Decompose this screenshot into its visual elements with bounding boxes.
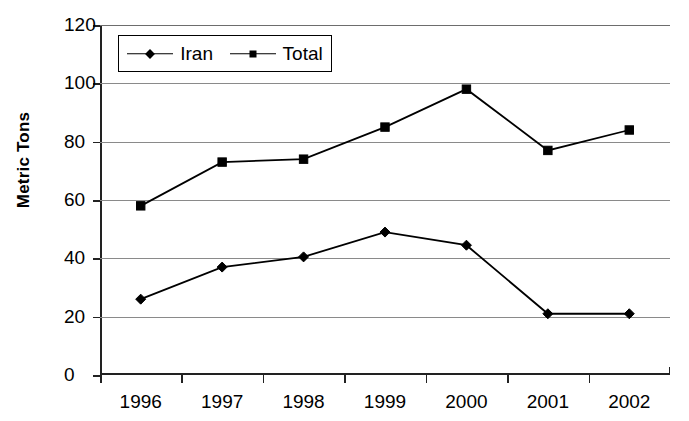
data-point-total-1997: [218, 158, 226, 166]
data-point-total-2002: [625, 126, 633, 134]
y-tick-label-100: 100: [64, 72, 82, 94]
data-point-iran-1996: [136, 294, 146, 304]
x-tick-1996: [100, 375, 102, 383]
data-point-iran-2002: [624, 309, 634, 319]
y-tick-label-60: 60: [64, 189, 82, 211]
data-point-total-1996: [137, 202, 145, 210]
legend-marker-square-icon: [230, 47, 276, 61]
data-point-iran-1998: [299, 252, 309, 262]
series-group: [100, 25, 670, 375]
legend-marker-diamond-icon: [127, 47, 173, 61]
x-tick-label-1999: 1999: [364, 391, 406, 413]
x-tick-label-1996: 1996: [120, 391, 162, 413]
x-tick-2000: [426, 375, 428, 383]
x-tick-label-1998: 1998: [282, 391, 324, 413]
x-tick-1997: [181, 375, 183, 383]
data-point-total-1998: [299, 155, 307, 163]
x-tick-2002: [589, 375, 591, 383]
legend-entry-iran: Iran: [127, 43, 213, 65]
legend-entry-total: Total: [230, 43, 323, 65]
y-tick-0: [93, 375, 100, 377]
x-tick-1998: [263, 375, 265, 383]
x-tick-1999: [344, 375, 346, 383]
legend-label-iran: Iran: [180, 43, 213, 65]
x-tick-label-2001: 2001: [527, 391, 569, 413]
x-tick-2001: [507, 375, 509, 383]
data-point-total-2000: [462, 85, 470, 93]
chart-legend: Iran Total: [118, 35, 332, 72]
plot-area: 020406080100120 199619971998199920002001…: [100, 25, 670, 375]
y-tick-label-80: 80: [64, 131, 82, 153]
y-tick-label-20: 20: [64, 306, 82, 328]
data-point-iran-1997: [217, 262, 227, 272]
x-tick-label-1997: 1997: [201, 391, 243, 413]
y-tick-40: [93, 258, 100, 260]
y-tick-60: [93, 200, 100, 202]
y-tick-label-40: 40: [64, 247, 82, 269]
y-tick-20: [93, 317, 100, 319]
y-tick-80: [93, 142, 100, 144]
data-point-total-1999: [381, 123, 389, 131]
data-point-iran-1999: [380, 227, 390, 237]
data-point-total-2001: [544, 146, 552, 154]
y-tick-label-0: 0: [64, 364, 82, 386]
y-axis-title: Metric Tons: [14, 80, 34, 240]
y-tick-label-120: 120: [64, 14, 82, 36]
series-line-iran: [141, 232, 630, 314]
series-line-total: [141, 89, 630, 206]
x-tick-label-2000: 2000: [445, 391, 487, 413]
legend-label-total: Total: [283, 43, 323, 65]
chart-screenshot: Metric Tons 020406080100120 199619971998…: [0, 0, 689, 421]
x-tick-label-2002: 2002: [608, 391, 650, 413]
